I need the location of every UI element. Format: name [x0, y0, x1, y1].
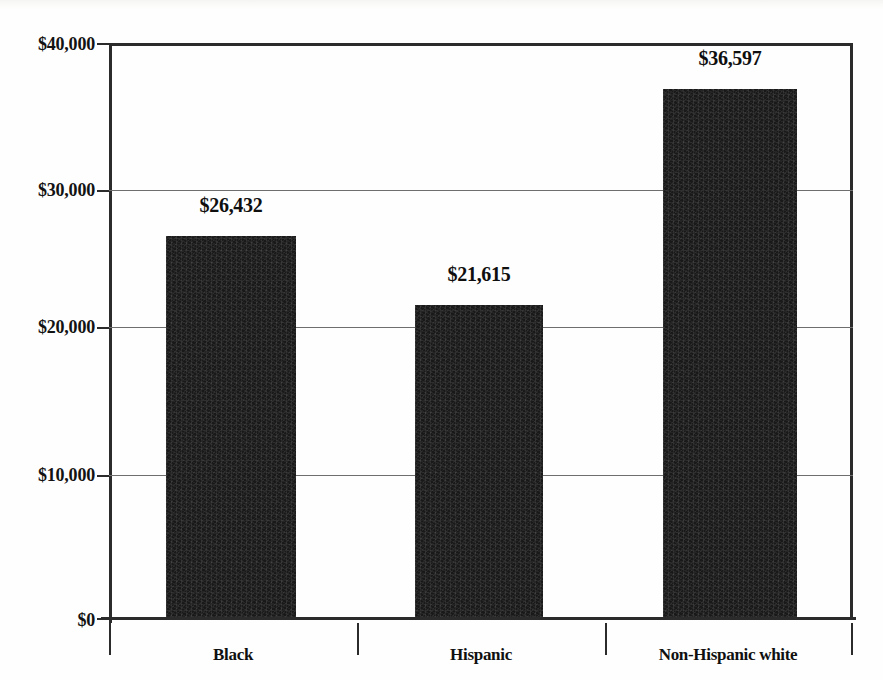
y-tick-0 [97, 618, 109, 620]
y-tick-40000 [97, 43, 109, 45]
scan-artifact [0, 0, 883, 10]
y-axis-label-20000: $20,000 [0, 317, 95, 338]
y-axis-label-40000: $40,000 [0, 34, 95, 55]
y-tick-20000 [97, 327, 109, 329]
bar-non-hispanic-white[interactable] [663, 89, 797, 617]
plot-frame-right [850, 43, 853, 620]
category-separator-left [109, 623, 111, 655]
category-separator-2 [605, 623, 607, 655]
category-separator-right [851, 623, 853, 655]
bar-value-label-non-hispanic-white: $36,597 [699, 47, 762, 70]
bar-hispanic[interactable] [415, 305, 543, 617]
bar-black[interactable] [166, 236, 296, 617]
y-axis-label-30000: $30,000 [0, 180, 95, 201]
category-separator-1 [357, 623, 359, 655]
bar-chart: $40,000 $30,000 $20,000 $10,000 $0 $26,4… [0, 0, 883, 680]
plot-area [109, 43, 853, 620]
x-axis-line [101, 617, 856, 620]
x-axis-label-black: Black [213, 645, 253, 665]
x-axis-label-hispanic: Hispanic [450, 645, 512, 665]
bar-value-label-black: $26,432 [200, 194, 263, 217]
bar-value-label-hispanic: $21,615 [448, 263, 511, 286]
y-axis-line [109, 43, 112, 623]
plot-frame-top [109, 43, 853, 46]
x-axis-label-non-hispanic-white: Non-Hispanic white [659, 645, 798, 665]
y-axis-label-10000: $10,000 [0, 465, 95, 486]
y-tick-30000 [97, 190, 109, 192]
y-axis-label-0: $0 [0, 610, 95, 631]
y-tick-10000 [97, 475, 109, 477]
